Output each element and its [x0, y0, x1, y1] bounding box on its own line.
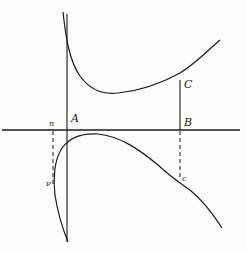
label-a: A — [71, 113, 79, 124]
label-nu: ν — [46, 180, 51, 188]
label-n: n — [49, 120, 54, 128]
label-b: B — [184, 117, 192, 128]
label-c-lower: c — [182, 175, 186, 183]
lower-curve-branch — [54, 134, 222, 242]
diagram-svg — [0, 0, 247, 253]
upper-curve-branch — [63, 12, 220, 93]
diagram-figure: A B C c n ν — [0, 0, 247, 253]
label-c-upper: C — [184, 79, 192, 90]
